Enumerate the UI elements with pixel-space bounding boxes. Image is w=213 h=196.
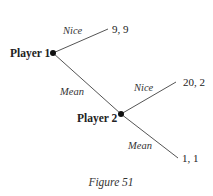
payoff-p1-nice: 9, 9 xyxy=(112,23,129,35)
player1-label: Player 1 xyxy=(10,47,51,60)
action-label-p1-mean: Mean xyxy=(59,86,84,97)
action-label-p2-mean: Mean xyxy=(127,140,152,151)
edge-p2-mean xyxy=(121,114,178,158)
action-label-p2-nice: Nice xyxy=(133,82,154,93)
edge-p1-mean xyxy=(53,53,121,114)
figure-caption: Figure 51 xyxy=(87,176,133,189)
player2-label: Player 2 xyxy=(77,112,118,125)
player1-node xyxy=(50,50,56,56)
game-tree-diagram: Player 1 Player 2 Nice Mean Nice Mean 9,… xyxy=(0,0,213,196)
payoff-p2-nice: 20, 2 xyxy=(183,76,205,88)
player2-node xyxy=(118,111,124,117)
payoff-p2-mean: 1, 1 xyxy=(182,152,199,164)
action-label-p1-nice: Nice xyxy=(62,25,83,36)
